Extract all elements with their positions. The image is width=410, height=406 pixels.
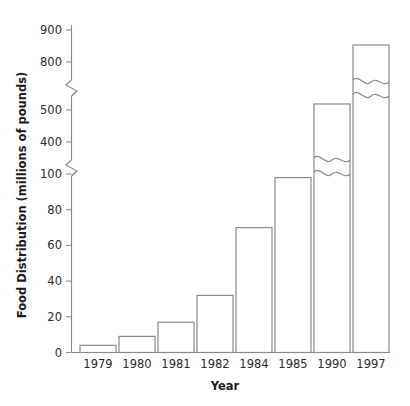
y-tick-label-500: 500 xyxy=(40,103,62,117)
x-tick-label-1979: 1979 xyxy=(83,357,112,371)
bar-1997-break-mask xyxy=(354,78,388,94)
y-tick-label-400: 400 xyxy=(40,135,62,149)
bar-1981[interactable] xyxy=(158,322,194,352)
bar-1979[interactable] xyxy=(80,345,116,352)
y-tick-label-100: 100 xyxy=(40,167,62,181)
bar-1982[interactable] xyxy=(197,295,233,352)
x-tick-label-1982: 1982 xyxy=(200,357,229,371)
bar-1980[interactable] xyxy=(119,336,155,352)
x-tick-label-1990: 1990 xyxy=(317,357,346,371)
chart-canvas: 0 20 40 60 80 100 400 500 800 900 xyxy=(0,0,410,406)
x-tick-label-1984: 1984 xyxy=(239,357,268,371)
x-tick-label-1980: 1980 xyxy=(122,357,151,371)
x-tick-label-1997: 1997 xyxy=(356,357,385,371)
bar-1984[interactable] xyxy=(236,228,272,353)
bar-1985[interactable] xyxy=(275,178,311,353)
y-axis-title: Food Distribution (millions of pounds) xyxy=(15,72,29,319)
bar-1990-break-mask xyxy=(315,156,349,172)
bar-1990[interactable] xyxy=(314,104,350,353)
y-tick-label-0: 0 xyxy=(55,346,62,360)
x-tick-label-1981: 1981 xyxy=(161,357,190,371)
y-tick-label-800: 800 xyxy=(40,55,62,69)
y-tick-label-20: 20 xyxy=(47,310,62,324)
x-axis-title: Year xyxy=(210,379,240,393)
y-tick-label-40: 40 xyxy=(47,274,62,288)
y-tick-label-80: 80 xyxy=(47,203,62,217)
y-tick-label-900: 900 xyxy=(40,23,62,37)
y-tick-label-60: 60 xyxy=(47,238,62,252)
bar-chart-figure: 0 20 40 60 80 100 400 500 800 900 xyxy=(0,0,410,406)
x-tick-label-1985: 1985 xyxy=(278,357,307,371)
